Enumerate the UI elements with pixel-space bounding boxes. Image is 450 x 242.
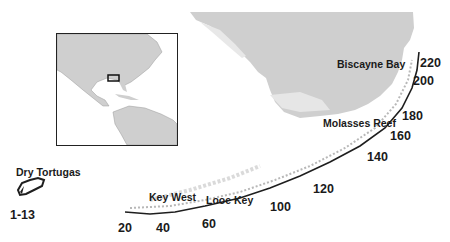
south-america [113,106,177,145]
label-looe-key: Looe Key [206,195,253,206]
distance-label: 220 [420,57,441,70]
distance-label: 120 [313,183,334,196]
distance-label: 1-13 [10,209,35,222]
distance-label: 60 [202,218,216,231]
distance-label: 160 [390,130,411,143]
distance-label: 180 [402,110,423,123]
label-molasses-reef: Molasses Reef [323,118,396,129]
inset-locator-map [56,33,178,146]
distance-label: 100 [270,201,291,214]
distance-label: 200 [413,75,434,88]
label-key-west: Key West [149,192,196,203]
label-biscayne-bay: Biscayne Bay [337,59,405,70]
distance-label: 140 [367,151,388,164]
label-dry-tortugas: Dry Tortugas [16,167,81,178]
cuba [115,94,139,100]
distance-label: 40 [156,222,170,235]
distance-label: 20 [118,222,132,235]
north-america [57,34,162,106]
